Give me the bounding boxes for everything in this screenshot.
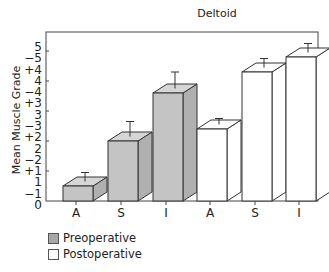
y-axis-label: Mean Muscle Grade [10, 65, 23, 174]
legend-label: Postoperative [63, 247, 142, 261]
x-tick-label: S [117, 206, 125, 220]
bars [63, 44, 329, 202]
x-tick-label: A [206, 206, 215, 220]
y-axis-ticks: 5−5+44−4+33−3+22−2+11−10 [24, 40, 49, 212]
x-tick-label: I [297, 206, 301, 220]
bar-preoperative-s [108, 122, 152, 202]
legend-item-postoperative: Postoperative [48, 246, 142, 262]
postoperative-swatch [48, 249, 59, 260]
legend: Preoperative Postoperative [48, 230, 142, 262]
legend-item-preoperative: Preoperative [48, 230, 142, 246]
bar-preoperative-a [63, 173, 107, 202]
chart-title: Deltoid [197, 7, 236, 20]
x-tick-label: A [72, 206, 81, 220]
bar-postoperative-i [286, 44, 329, 202]
x-tick-label: S [251, 206, 259, 220]
preoperative-swatch [48, 233, 59, 244]
bar-postoperative-a [197, 119, 241, 202]
y-tick-label: 0 [34, 198, 42, 212]
bar-preoperative-i [153, 72, 197, 201]
bar-postoperative-s [242, 59, 286, 202]
x-tick-label: I [164, 206, 168, 220]
legend-label: Preoperative [63, 231, 136, 245]
x-axis-ticks: ASIASI [72, 201, 301, 220]
